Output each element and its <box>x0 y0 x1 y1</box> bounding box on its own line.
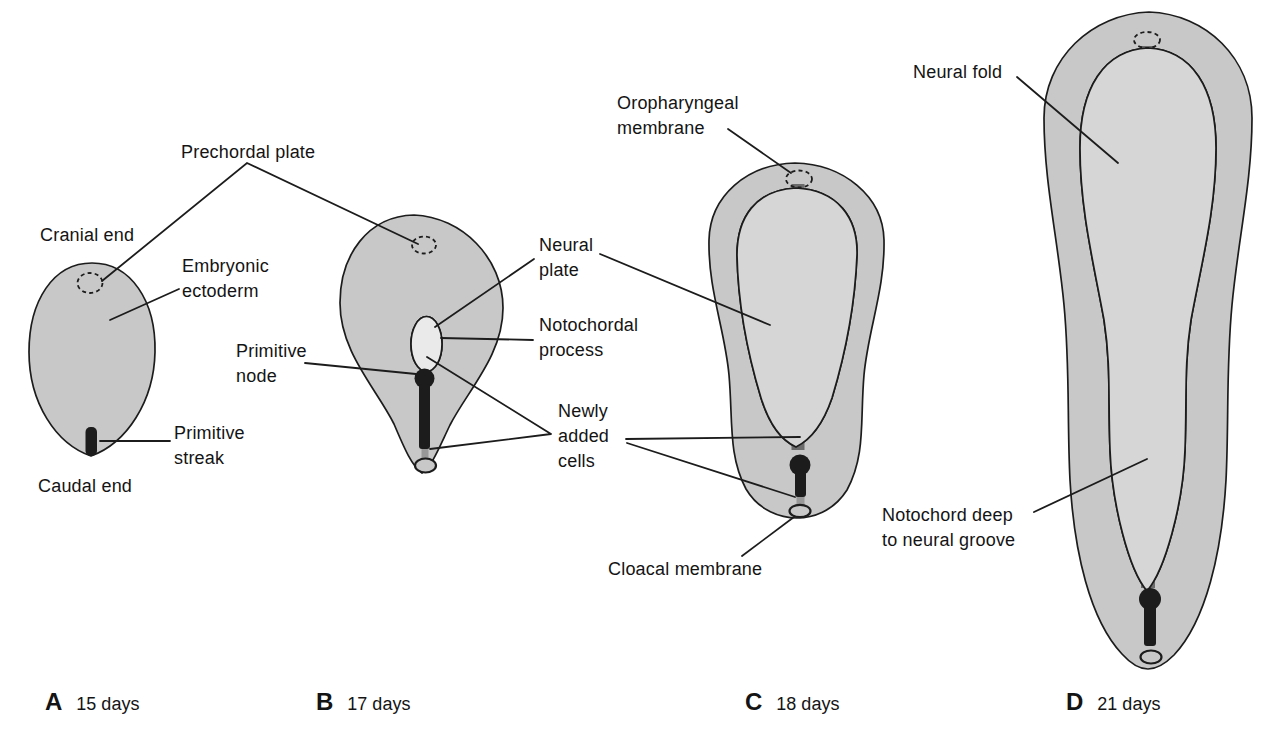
cloacal-membrane-oval-c <box>790 505 811 517</box>
label-newly-added-cells: Newly added cells <box>558 399 609 474</box>
panel-letter-a: A <box>45 688 62 716</box>
embryo-b <box>340 215 503 473</box>
label-neural-plate: Neural plate <box>539 233 593 283</box>
label-cranial-end: Cranial end <box>40 223 134 248</box>
label-cloacal-membrane: Cloacal membrane <box>608 557 762 582</box>
primitive-streak-b <box>419 384 430 449</box>
panel-age-a: 15 days <box>76 694 139 715</box>
panel-label-d: D 21 days <box>1066 688 1160 716</box>
panel-age-c: 18 days <box>776 694 839 715</box>
label-embryonic-ectoderm: Embryonic ectoderm <box>182 254 269 304</box>
label-caudal-end: Caudal end <box>38 474 132 499</box>
embryo-d <box>1044 12 1252 669</box>
embryo-development-figure: Prechordal plate Cranial end Embryonic e… <box>0 0 1266 741</box>
panel-label-b: B 17 days <box>316 688 410 716</box>
panel-letter-d: D <box>1066 688 1083 716</box>
primitive-streak-c <box>795 471 806 497</box>
panel-label-a: A 15 days <box>45 688 139 716</box>
label-oropharyngeal-membrane: Oropharyngeal membrane <box>617 91 739 141</box>
label-prechordal-plate: Prechordal plate <box>181 140 315 165</box>
label-primitive-streak: Primitive streak <box>174 421 245 471</box>
label-primitive-node: Primitive node <box>236 339 307 389</box>
label-notochord-deep: Notochord deep to neural groove <box>882 503 1015 553</box>
panel-label-c: C 18 days <box>745 688 839 716</box>
panel-letter-b: B <box>316 688 333 716</box>
embryo-a <box>29 263 155 456</box>
label-notochordal-process: Notochordal process <box>539 313 638 363</box>
panel-age-b: 17 days <box>347 694 410 715</box>
leader-cloacal-membrane <box>742 517 794 556</box>
label-neural-fold: Neural fold <box>913 60 1002 85</box>
primitive-streak-d <box>1144 605 1156 646</box>
panel-age-d: 21 days <box>1097 694 1160 715</box>
cloacal-membrane-oval-b <box>415 459 436 473</box>
cloacal-membrane-oval-d <box>1141 651 1162 664</box>
panel-letter-c: C <box>745 688 762 716</box>
embryo-c <box>709 163 884 518</box>
primitive-streak-a <box>86 427 98 456</box>
